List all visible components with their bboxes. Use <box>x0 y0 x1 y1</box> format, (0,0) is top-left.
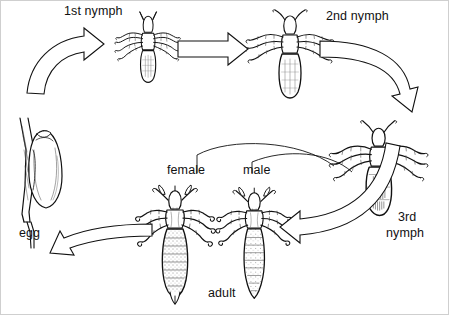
label-nymph3-line1: 3rd <box>398 210 416 224</box>
arrow-adult-to-egg <box>50 224 152 255</box>
label-nymph3-line2: nymph <box>386 226 424 240</box>
label-egg: egg <box>19 226 40 240</box>
label-nymph2: 2nd nymph <box>326 9 389 23</box>
arrow-nymph2-to-nymph3 <box>320 41 418 112</box>
label-nymph1: 1st nymph <box>64 4 123 18</box>
label-adult: adult <box>208 286 236 300</box>
arrow-nymph1-to-nymph2 <box>178 33 248 65</box>
label-female: female <box>167 163 205 177</box>
diagram-leader-lines <box>197 144 352 173</box>
arrow-nymph3-to-adult <box>280 143 400 243</box>
label-male: male <box>243 163 271 177</box>
arrow-egg-to-nymph1 <box>27 28 104 94</box>
louse-life-cycle-diagram: 1st nymph 2nd nymph 3rd nymph egg adult … <box>0 0 450 316</box>
diagram-arrow-layer <box>0 0 450 316</box>
